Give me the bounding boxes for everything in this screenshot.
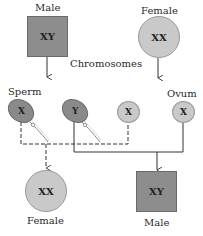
male-offspring-square: XY	[136, 171, 177, 212]
ovum-label: Ovum	[167, 88, 197, 100]
male-parent-label: Male	[35, 2, 60, 14]
male-parent-square: XY	[27, 16, 68, 57]
female-offspring-label: Female	[27, 215, 64, 227]
egg-x-1-circle: X	[117, 101, 140, 123]
sperm-x-chromosome: X	[18, 106, 25, 116]
sperm-x-tail	[30, 122, 48, 142]
female-parent-chromosomes: XX	[151, 32, 167, 43]
ovum-x-chromosome: X	[180, 107, 187, 117]
sperm-x-oval: X	[3, 94, 39, 128]
female-parent-circle: XX	[138, 16, 180, 58]
sperm-y-chromosome: Y	[72, 106, 78, 116]
female-offspring-dashed-path	[21, 122, 128, 144]
sperm-y-tail	[82, 122, 100, 142]
female-offspring-circle: XX	[25, 170, 67, 212]
sperm-y-tail-inner	[84, 121, 101, 140]
male-offspring-label: Male	[144, 217, 169, 229]
male-parent-chromosomes: XY	[40, 31, 55, 42]
sperm-x-tail-inner	[32, 121, 49, 140]
male-offspring-chromosomes: XY	[149, 186, 164, 197]
male-offspring-solid-path	[74, 122, 183, 152]
chromosomes-label: Chromosomes	[70, 58, 142, 70]
sperm-y-oval: Y	[57, 94, 93, 128]
ovum-x-circle: X	[172, 101, 195, 123]
egg-x-1-chromosome: X	[125, 107, 132, 117]
female-offspring-chromosomes: XX	[38, 186, 54, 197]
sperm-label: Sperm	[8, 86, 41, 98]
